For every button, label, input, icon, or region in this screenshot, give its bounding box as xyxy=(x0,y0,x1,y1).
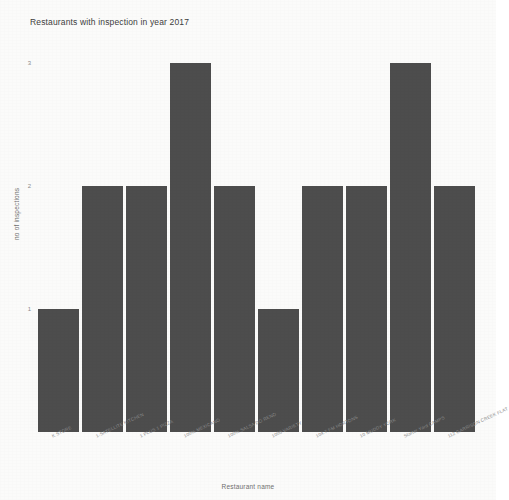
bar-slot xyxy=(388,32,432,432)
x-axis-ticks: K STORE1-SATELLITE KITCHEN1 PLUS 1 PIZZA… xyxy=(36,434,476,484)
bar-slot xyxy=(212,32,256,432)
bar[interactable] xyxy=(390,63,431,432)
bar[interactable] xyxy=(214,186,255,432)
bar-slot xyxy=(300,32,344,432)
bar-slot xyxy=(168,32,212,432)
bar[interactable] xyxy=(126,186,167,432)
y-axis-tick-label: 2 xyxy=(28,183,31,189)
bar[interactable] xyxy=(302,186,343,432)
plot-area: 123 xyxy=(36,32,476,432)
bar[interactable] xyxy=(82,186,123,432)
x-axis-title: Restaurant name xyxy=(0,483,496,490)
chart-title: Restaurants with inspection in year 2017 xyxy=(30,17,189,27)
y-axis-title: no of inspections xyxy=(13,188,20,240)
bar-slot xyxy=(256,32,300,432)
bar-slot xyxy=(80,32,124,432)
bar[interactable] xyxy=(38,309,79,432)
bar-slot xyxy=(344,32,388,432)
bar-series xyxy=(36,32,476,432)
bar[interactable] xyxy=(434,186,475,432)
bar-slot xyxy=(36,32,80,432)
bar[interactable] xyxy=(258,309,299,432)
bar[interactable] xyxy=(170,63,211,432)
y-axis-tick-label: 1 xyxy=(28,306,31,312)
y-axis-tick-label: 3 xyxy=(28,60,31,66)
bar-slot xyxy=(124,32,168,432)
bar[interactable] xyxy=(346,186,387,432)
bar-slot xyxy=(432,32,476,432)
